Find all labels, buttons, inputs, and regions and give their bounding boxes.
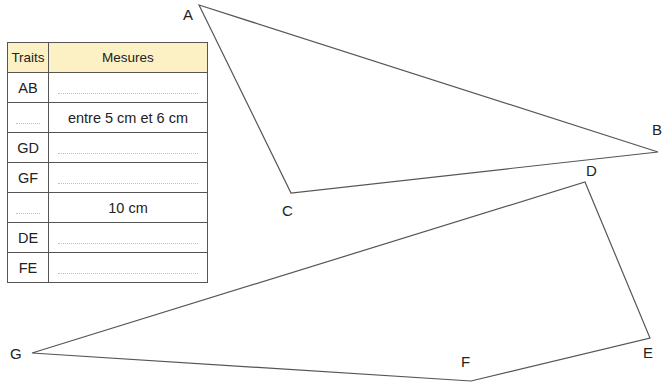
mesure-answer-field[interactable] [49, 163, 208, 193]
mesure-answer-field[interactable] [49, 253, 208, 283]
vertex-label-c: C [282, 203, 293, 218]
table-row: GD [8, 133, 208, 163]
vertex-label-e: E [643, 345, 653, 360]
table-row: entre 5 cm et 6 cm [8, 103, 208, 133]
trait-answer-field[interactable] [8, 193, 49, 223]
table-row: FE [8, 253, 208, 283]
trait-cell: GD [8, 133, 49, 163]
table-row: GF [8, 163, 208, 193]
mesure-answer-field[interactable] [49, 73, 208, 103]
mesure-answer-field[interactable] [49, 223, 208, 253]
vertex-label-b: B [652, 122, 662, 137]
table-row: DE [8, 223, 208, 253]
mesure-cell: entre 5 cm et 6 cm [49, 103, 208, 133]
vertex-label-d: D [586, 163, 597, 178]
dotted-answer-line [16, 123, 40, 124]
trait-cell: DE [8, 223, 49, 253]
header-mesures: Mesures [49, 43, 208, 73]
mesure-answer-field[interactable] [49, 133, 208, 163]
mesure-cell: 10 cm [49, 193, 208, 223]
trait-cell: AB [8, 73, 49, 103]
dotted-answer-line [16, 213, 40, 214]
table-header-row: Traits Mesures [8, 43, 208, 73]
vertex-label-g: G [10, 346, 22, 361]
measurements-table: Traits Mesures AB entre 5 cm et 6 cm GD … [7, 42, 208, 283]
dotted-answer-line [58, 243, 198, 244]
trait-cell: FE [8, 253, 49, 283]
dotted-answer-line [58, 153, 198, 154]
trait-answer-field[interactable] [8, 103, 49, 133]
vertex-label-f: F [461, 354, 470, 369]
dotted-answer-line [58, 183, 198, 184]
dotted-answer-line [58, 93, 198, 94]
table-row: 10 cm [8, 193, 208, 223]
header-traits: Traits [8, 43, 49, 73]
trait-cell: GF [8, 163, 49, 193]
dotted-answer-line [58, 273, 198, 274]
table-row: AB [8, 73, 208, 103]
vertex-label-a: A [183, 7, 193, 22]
